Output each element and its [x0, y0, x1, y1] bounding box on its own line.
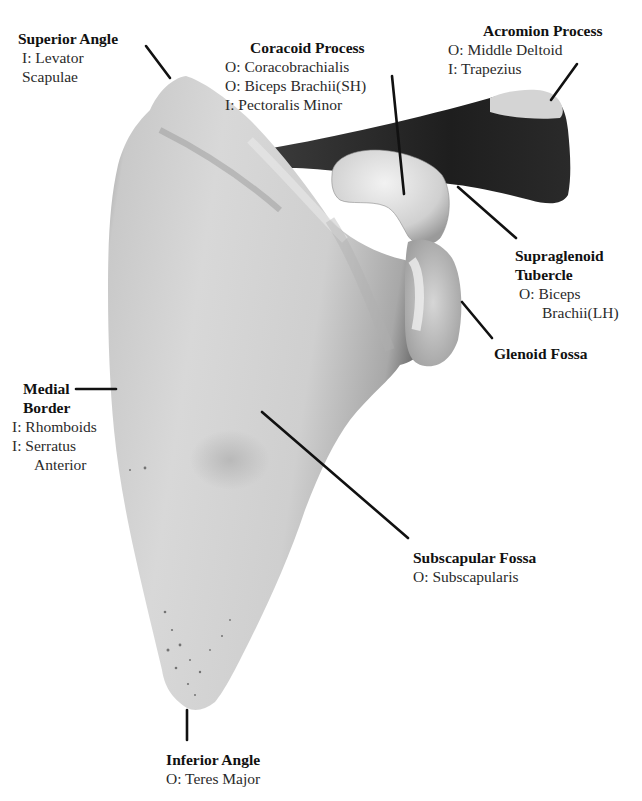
- label-line: O: Middle Deltoid: [448, 40, 603, 59]
- label-superior-angle: Superior Angle I: Levator Scapulae: [18, 29, 118, 86]
- label-title: Supraglenoid: [515, 246, 619, 265]
- label-title: Tubercle: [515, 265, 619, 284]
- label-line: O: Coracobrachialis: [225, 57, 366, 76]
- label-medial-border: Medial Border I: Rhomboids I: Serratus A…: [12, 379, 97, 474]
- label-line: O: Biceps: [515, 284, 619, 303]
- label-line: O: Teres Major: [166, 769, 260, 788]
- label-glenoid-fossa: Glenoid Fossa: [494, 344, 587, 363]
- label-line: I: Levator: [18, 48, 118, 67]
- label-title: Acromion Process: [448, 21, 603, 40]
- label-line: I: Serratus: [12, 436, 97, 455]
- glenoid-fossa: [405, 239, 461, 366]
- label-line: O: Subscapularis: [413, 567, 536, 586]
- fossa-shading: [190, 430, 270, 490]
- label-line: I: Rhomboids: [12, 417, 97, 436]
- leader-supraglenoid-tubercle: [458, 187, 516, 238]
- label-title: Subscapular Fossa: [413, 548, 536, 567]
- label-title: Medial: [12, 379, 97, 398]
- label-title: Coracoid Process: [225, 38, 366, 57]
- label-coracoid-process: Coracoid Process O: Coracobrachialis O: …: [225, 38, 366, 114]
- label-supraglenoid-tubercle: Supraglenoid Tubercle O: Biceps Brachii(…: [515, 246, 619, 322]
- leader-glenoid-fossa: [462, 302, 492, 338]
- label-title: Border: [12, 398, 97, 417]
- label-title: Glenoid Fossa: [494, 344, 587, 363]
- label-title: Inferior Angle: [166, 750, 260, 769]
- leader-superior-angle: [146, 46, 170, 78]
- label-line: O: Biceps Brachii(SH): [225, 76, 366, 95]
- label-line: Anterior: [12, 455, 97, 474]
- label-line: I: Pectoralis Minor: [225, 95, 366, 114]
- label-subscapular-fossa: Subscapular Fossa O: Subscapularis: [413, 548, 536, 586]
- label-line: Scapulae: [18, 67, 118, 86]
- label-line: Brachii(LH): [515, 303, 619, 322]
- label-acromion-process: Acromion Process O: Middle Deltoid I: Tr…: [448, 21, 603, 78]
- label-inferior-angle: Inferior Angle O: Teres Major: [166, 750, 260, 788]
- label-title: Superior Angle: [18, 29, 118, 48]
- label-line: I: Trapezius: [448, 59, 603, 78]
